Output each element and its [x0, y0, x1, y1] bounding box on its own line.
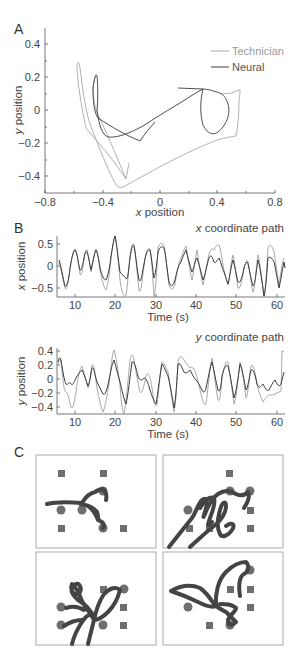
- xtick-label: 0.8: [267, 196, 282, 208]
- figure-canvas: A 0.4 0.2 0 −0.2 −0.4 −0: [0, 0, 301, 659]
- ytick-label: 0: [47, 260, 53, 272]
- panel-letter-a: A: [14, 21, 24, 37]
- square-target-icon: [247, 507, 254, 514]
- square-target-icon: [247, 525, 254, 532]
- ytick-label: −0.2: [31, 387, 53, 399]
- panel-letter-b: B: [14, 220, 23, 236]
- square-target-icon: [58, 470, 65, 477]
- square-target-icon: [247, 604, 254, 611]
- square-target-icon: [120, 525, 127, 532]
- ytick-label: 0.4: [25, 38, 40, 50]
- panel-a: A 0.4 0.2 0 −0.2 −0.4 −0: [12, 21, 284, 218]
- y-subplot-xlabel: Time (s): [147, 428, 189, 440]
- subplot-title-y: y coordinate path: [195, 331, 284, 343]
- square-target-icon: [206, 622, 213, 629]
- y-coordinate-subplot: y coordinate path 0.4 0.2 0 −0.2 −0.4: [15, 331, 285, 440]
- subplot-title-x: x coordinate path: [195, 222, 284, 234]
- ytick-label: 0.2: [38, 359, 53, 371]
- xtick-label: 50: [230, 299, 242, 311]
- square-target-icon: [227, 586, 234, 593]
- technician-trajectory: [77, 62, 240, 188]
- square-target-icon: [247, 586, 254, 593]
- ytick-label: −0.4: [31, 401, 53, 413]
- y-subplot-ylabel: y position: [15, 357, 27, 407]
- xtick-label: 40: [190, 299, 202, 311]
- circle-target-icon: [99, 621, 108, 630]
- panel-b: B x coordinate path 0.5 0 −0.5 10 2: [14, 220, 285, 440]
- workspace-border: [36, 552, 156, 645]
- x-technician-series: [59, 236, 284, 297]
- x-subplot-xticks: 10 20 30 40 50 60: [69, 299, 283, 311]
- y-technician-series: [58, 350, 284, 414]
- square-target-icon: [100, 470, 107, 477]
- xtick-label: 10: [69, 299, 81, 311]
- y-axis-title: y position: [12, 86, 24, 136]
- xtick-label: 40: [190, 416, 202, 428]
- xtick-label: 60: [271, 416, 283, 428]
- x-subplot-axes: [57, 236, 285, 297]
- x-subplot-yticks: 0.5 0 −0.5: [31, 238, 53, 294]
- workspace-3: [36, 552, 156, 645]
- xtick-label: 30: [150, 416, 162, 428]
- ytick-label: −0.5: [31, 282, 53, 294]
- legend-technician-label: Technician: [232, 45, 284, 57]
- y-subplot-axes: [57, 348, 285, 414]
- circle-target-icon: [184, 506, 193, 515]
- ytick-label: 0: [34, 104, 40, 116]
- x-neural-series: [59, 236, 285, 296]
- xtick-label: 0.4: [209, 196, 224, 208]
- ytick-label: −0.2: [18, 137, 40, 149]
- neural-trajectory: [93, 75, 229, 141]
- square-target-icon: [120, 622, 127, 629]
- ytick-label: 0.5: [38, 238, 53, 250]
- xtick-label: 20: [109, 299, 121, 311]
- panel-c: C: [14, 444, 283, 645]
- circle-target-icon: [57, 506, 66, 515]
- workspace-2: [163, 455, 283, 548]
- workspace-1: [36, 455, 156, 548]
- square-target-icon: [120, 604, 127, 611]
- legend-neural-label: Neural: [232, 61, 264, 73]
- xtick-label: 30: [150, 299, 162, 311]
- circle-target-icon: [57, 603, 66, 612]
- ytick-label: 0: [47, 373, 53, 385]
- x-subplot-ylabel: x position: [15, 242, 27, 292]
- square-target-icon: [58, 525, 65, 532]
- circle-target-icon: [184, 603, 193, 612]
- x-subplot-xlabel: Time (s): [147, 311, 189, 323]
- panel-letter-c: C: [14, 444, 24, 460]
- workspace-4: [163, 552, 283, 645]
- legend: Technician Neural: [211, 45, 284, 73]
- xtick-label: −0.8: [34, 196, 56, 208]
- y-subplot-yticks: 0.4 0.2 0 −0.2 −0.4: [31, 345, 53, 413]
- xtick-label: 20: [109, 416, 121, 428]
- x-coordinate-subplot: x coordinate path 0.5 0 −0.5 10 20 30: [15, 222, 285, 323]
- workspace-border: [163, 552, 283, 645]
- y-subplot-xticks: 10 20 30 40 50 60: [69, 416, 283, 428]
- ytick-label: −0.4: [18, 170, 40, 182]
- xtick-label: 50: [230, 416, 242, 428]
- square-target-icon: [226, 470, 233, 477]
- ytick-label: 0.4: [38, 345, 53, 357]
- xtick-label: −0.4: [92, 196, 114, 208]
- x-axis-title: x position: [135, 206, 185, 218]
- ytick-label: 0.2: [25, 71, 40, 83]
- xtick-label: 60: [271, 299, 283, 311]
- xtick-label: 10: [69, 416, 81, 428]
